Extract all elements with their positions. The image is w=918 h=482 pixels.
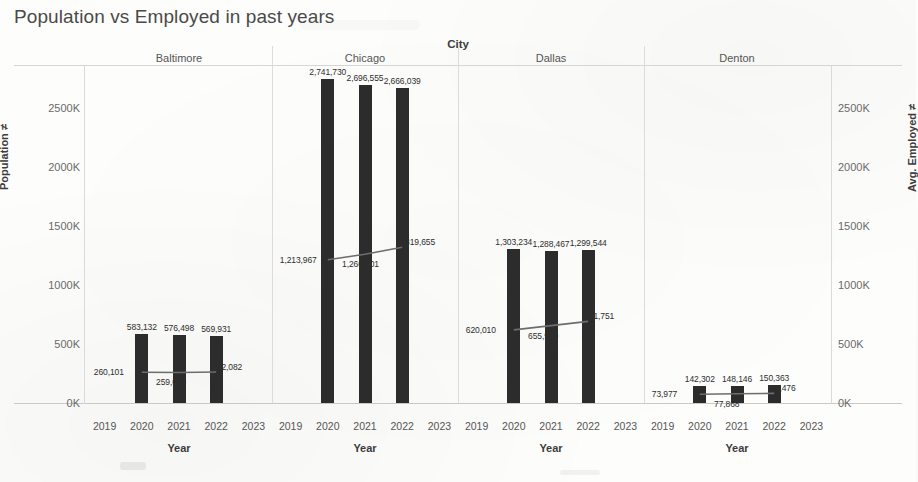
- line-value-label: 81,476: [770, 383, 795, 393]
- line-value-label: 73,977: [652, 389, 677, 399]
- line-value-label: 77,868: [714, 399, 739, 409]
